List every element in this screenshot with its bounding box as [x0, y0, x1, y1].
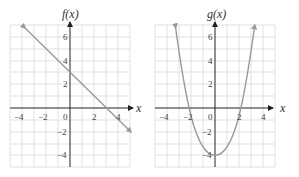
- svg-text:−2: −2: [38, 112, 48, 122]
- svg-text:−4: −4: [14, 112, 24, 122]
- graph-g: g(x) x −4 −2 0 2 4 6 4 2 −2 −4: [150, 0, 299, 177]
- svg-text:−4: −4: [159, 112, 169, 122]
- y-axis-label: f(x): [62, 7, 79, 21]
- svg-text:−4: −4: [57, 150, 67, 160]
- svg-text:4: 4: [208, 56, 213, 66]
- graph-f: f(x) x −4 −2 0 2 4 6 4 2 −2 −4: [0, 0, 150, 177]
- svg-text:−4: −4: [202, 150, 212, 160]
- x-tick-labels: −4 −2 0 2 4: [14, 112, 121, 122]
- svg-text:−2: −2: [202, 127, 212, 137]
- x-axis-label: x: [279, 101, 286, 115]
- graph-g-svg: g(x) x −4 −2 0 2 4 6 4 2 −2 −4: [150, 0, 299, 177]
- svg-text:2: 2: [237, 112, 242, 122]
- svg-text:4: 4: [63, 56, 68, 66]
- svg-text:4: 4: [116, 112, 121, 122]
- graph-f-svg: f(x) x −4 −2 0 2 4 6 4 2 −2 −4: [0, 0, 150, 177]
- x-axis-label: x: [135, 101, 142, 115]
- svg-text:6: 6: [208, 32, 213, 42]
- svg-text:6: 6: [63, 32, 68, 42]
- svg-text:0: 0: [63, 112, 68, 122]
- svg-text:2: 2: [92, 112, 97, 122]
- x-tick-labels: −4 −2 0 2 4: [159, 112, 266, 122]
- svg-text:2: 2: [63, 79, 68, 89]
- svg-text:−2: −2: [57, 127, 67, 137]
- svg-text:4: 4: [261, 112, 266, 122]
- svg-text:−2: −2: [183, 112, 193, 122]
- y-axis-label: g(x): [207, 7, 226, 21]
- svg-text:2: 2: [208, 79, 213, 89]
- svg-text:0: 0: [208, 112, 213, 122]
